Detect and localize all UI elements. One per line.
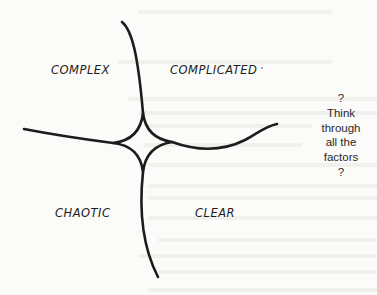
quadrant-label-complex: COMPLEX <box>51 63 110 77</box>
side-note-line: factors <box>314 150 368 165</box>
side-note-question-bottom: ? <box>314 165 368 180</box>
domains-diagram: COMPLEX COMPLICATED CHAOTIC CLEAR ? Thin… <box>0 0 377 295</box>
side-note-question-top: ? <box>314 91 368 106</box>
quadrant-label-chaotic: CHAOTIC <box>55 206 111 220</box>
side-note-line: through <box>314 121 368 136</box>
quadrant-label-clear: CLEAR <box>195 206 235 220</box>
stray-ink-dot <box>261 67 263 69</box>
boundary-line-bottom <box>141 172 158 277</box>
quadrant-label-complicated: COMPLICATED <box>170 63 257 77</box>
boundary-line-left <box>24 129 113 143</box>
central-disorder-shape <box>113 113 172 172</box>
side-note-line: Think <box>314 106 368 121</box>
boundary-line-top <box>122 22 143 113</box>
side-note: ? Think through all the factors ? <box>314 91 368 180</box>
side-note-line: all the <box>314 135 368 150</box>
boundary-line-right <box>172 124 277 149</box>
